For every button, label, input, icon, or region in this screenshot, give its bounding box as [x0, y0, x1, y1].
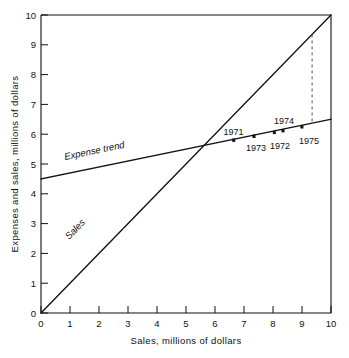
- point-label-1974: 1974: [274, 116, 294, 126]
- y-tick-label-6: 6: [31, 129, 36, 140]
- x-axis-title: Sales, millions of dollars: [130, 335, 241, 346]
- x-axis-ticks: [41, 306, 331, 313]
- y-tick-label-3: 3: [31, 218, 36, 229]
- x-tick-label-8: 8: [270, 318, 275, 329]
- sales-series-label: Sales: [63, 217, 88, 242]
- sales-line: [41, 15, 331, 313]
- x-tick-label-5: 5: [183, 318, 188, 329]
- breakeven-chart: 10 9 8 7 6 5 4 3 2 1 0 0: [0, 0, 349, 358]
- x-tick-label-1: 1: [67, 318, 72, 329]
- y-tick-label-4: 4: [31, 188, 36, 199]
- x-tick-label-7: 7: [241, 318, 246, 329]
- x-tick-label-3: 3: [125, 318, 130, 329]
- marker-1972: [273, 131, 276, 134]
- marker-1971: [232, 139, 235, 142]
- y-tick-label-0: 0: [31, 308, 36, 319]
- x-tick-label-0: 0: [38, 318, 43, 329]
- point-label-1972: 1972: [270, 141, 290, 151]
- x-axis-tick-labels: 0 1 2 3 4 5 6 7 8 9 10: [38, 318, 336, 329]
- data-point-labels: 1971 1973 1972 1974 1975: [223, 116, 319, 153]
- point-label-1973: 1973: [246, 143, 266, 153]
- y-tick-label-2: 2: [31, 248, 36, 259]
- x-tick-label-9: 9: [299, 318, 304, 329]
- y-tick-label-8: 8: [31, 69, 36, 80]
- x-tick-label-2: 2: [96, 318, 101, 329]
- point-label-1971: 1971: [223, 127, 243, 137]
- point-label-1975: 1975: [299, 136, 319, 146]
- y-tick-label-5: 5: [31, 159, 36, 170]
- y-tick-label-9: 9: [31, 39, 36, 50]
- y-axis-tick-labels: 10 9 8 7 6 5 4 3 2 1 0: [25, 10, 36, 319]
- y-axis-ticks: [41, 15, 48, 313]
- x-tick-label-10: 10: [326, 318, 337, 329]
- expense-trend-series-label: Expense trend: [63, 139, 126, 162]
- y-tick-label-10: 10: [25, 10, 36, 21]
- y-tick-label-7: 7: [31, 99, 36, 110]
- x-tick-label-4: 4: [154, 318, 159, 329]
- y-tick-label-1: 1: [31, 278, 36, 289]
- marker-1973: [253, 135, 256, 138]
- marker-1975: [300, 125, 303, 128]
- chart-canvas: 10 9 8 7 6 5 4 3 2 1 0 0: [0, 0, 349, 358]
- y-axis-title: Expenses and sales, millions of dollars: [9, 76, 20, 253]
- marker-1974: [282, 129, 285, 132]
- x-tick-label-6: 6: [212, 318, 217, 329]
